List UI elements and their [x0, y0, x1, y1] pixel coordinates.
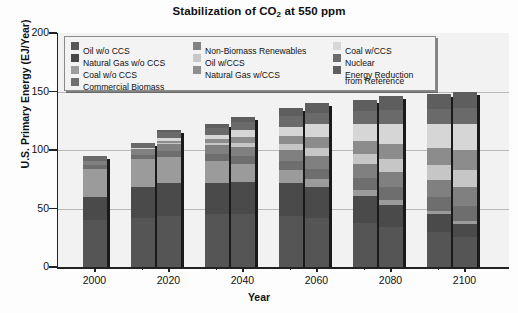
- legend-swatch-icon: [71, 78, 79, 86]
- bar-segment: [205, 128, 229, 135]
- bar-2100: [453, 92, 477, 268]
- bar-segment: [131, 159, 155, 187]
- y-tick-mark: [49, 32, 57, 34]
- x-tick-mark: [168, 267, 169, 272]
- x-tick-label: 2060: [286, 274, 346, 286]
- legend-label: Commercial Biomass: [83, 82, 164, 92]
- bar-segment: [353, 178, 377, 190]
- legend-swatch-icon: [71, 66, 79, 74]
- bar-segment: [305, 179, 329, 187]
- legend-swatch-icon: [193, 54, 201, 62]
- bar-2010: [131, 143, 155, 267]
- bar-shadow: [329, 106, 332, 267]
- bar-segment: [231, 117, 255, 122]
- y-tick-mark: [49, 91, 57, 93]
- bar-segment: [353, 100, 377, 112]
- bar-segment: [279, 161, 303, 170]
- legend-item: Natural Gas w/CCS: [193, 64, 306, 75]
- bar-segment: [131, 218, 155, 267]
- x-tick-mark: [242, 267, 243, 272]
- bar-segment: [453, 92, 477, 108]
- bar-segment: [427, 232, 451, 267]
- bar-segment: [205, 143, 229, 145]
- bar-segment: [157, 143, 181, 144]
- legend-item: Nuclear: [333, 52, 413, 63]
- legend-swatch-icon: [71, 54, 79, 62]
- bar-segment: [205, 161, 229, 183]
- legend-item: Non-Biomass Renewables: [193, 40, 306, 51]
- x-tick-mark-minor: [216, 267, 217, 270]
- x-tick-mark-minor: [364, 267, 365, 270]
- bar-segment: [231, 130, 255, 137]
- bar-segment: [157, 151, 181, 157]
- bar-segment: [453, 150, 477, 170]
- bar-segment: [353, 154, 377, 165]
- y-axis: 050100150200: [0, 33, 57, 269]
- x-tick-mark-minor: [438, 267, 439, 270]
- x-axis-line: [57, 267, 509, 269]
- bar-shadow: [403, 99, 406, 267]
- bar-segment: [231, 147, 255, 156]
- legend-column-1: Oil w/o CCSNatural Gas w/o CCSCoal w/o C…: [71, 40, 165, 88]
- bar-segment: [279, 108, 303, 116]
- bar-segment: [379, 144, 403, 159]
- bar-segment: [205, 183, 229, 215]
- x-tick-mark: [316, 267, 317, 272]
- bar-2000: [83, 156, 107, 267]
- bar-segment: [427, 214, 451, 232]
- chart-title-main: Stabilization of CO: [172, 5, 276, 17]
- bar-2070: [353, 100, 377, 267]
- bar-segment: [131, 143, 155, 148]
- bar-segment: [279, 170, 303, 183]
- bar-segment: [157, 157, 181, 183]
- bar-segment: [305, 148, 329, 156]
- legend-label-line2: from Reference: [345, 76, 404, 87]
- bar-segment: [427, 211, 451, 215]
- bar-segment: [131, 149, 155, 155]
- bar-segment: [453, 237, 477, 267]
- bar-segment: [205, 145, 229, 153]
- bar-shadow: [181, 133, 184, 267]
- bar-segment: [279, 216, 303, 267]
- y-tick-mark: [49, 149, 57, 151]
- bar-segment: [379, 172, 403, 187]
- chart-title: Stabilization of CO2 at 550 ppm: [0, 5, 518, 17]
- legend-swatch-icon: [193, 42, 201, 50]
- legend-item: Coal w/CCS: [333, 40, 413, 51]
- bar-segment: [205, 154, 229, 161]
- bar-segment: [305, 169, 329, 180]
- bar-2050: [279, 108, 303, 267]
- y-tick-label: 200: [9, 26, 49, 38]
- bar-segment: [305, 156, 329, 169]
- bar-segment: [83, 220, 107, 267]
- bar-2020: [157, 130, 181, 267]
- x-tick-mark: [464, 267, 465, 272]
- bar-segment: [353, 164, 377, 178]
- bar-segment: [305, 218, 329, 267]
- legend-label: Natural Gas w/CCS: [205, 70, 280, 80]
- bar-segment: [157, 141, 181, 143]
- bar-segment: [427, 124, 451, 147]
- bar-segment: [157, 144, 181, 151]
- bar-segment: [453, 170, 477, 188]
- chart-canvas: Stabilization of CO2 at 550 ppm U.S. Pri…: [0, 0, 518, 313]
- bar-segment: [205, 214, 229, 267]
- bar-segment: [83, 156, 107, 161]
- legend-swatch-icon: [193, 66, 201, 74]
- bar-segment: [305, 187, 329, 217]
- bar-2080: [379, 96, 403, 267]
- bar-segment: [379, 159, 403, 172]
- y-tick-label: 100: [9, 143, 49, 155]
- bar-segment: [231, 164, 255, 182]
- bar-segment: [83, 169, 107, 197]
- legend-item: Energy Reduction: [333, 64, 413, 75]
- bar-segment: [231, 182, 255, 215]
- bar-segment: [279, 144, 303, 150]
- bar-segment: [427, 197, 451, 211]
- bar-segment: [279, 127, 303, 136]
- bar-segment: [379, 200, 403, 205]
- bar-segment: [279, 183, 303, 216]
- y-tick-mark: [49, 208, 57, 210]
- bar-2090: [427, 94, 451, 267]
- y-tick-label: 50: [9, 202, 49, 214]
